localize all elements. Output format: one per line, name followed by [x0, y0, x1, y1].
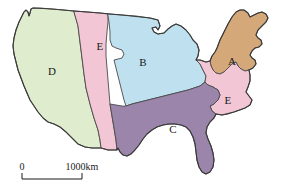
scale-bar-line [22, 173, 82, 179]
region-fills [13, 8, 268, 174]
scale-bar-end-label: 1000km [66, 161, 99, 172]
region-label-E-plains: E [97, 40, 104, 52]
map-svg: D E B A E C 0 1000km [0, 0, 282, 188]
region-label-D: D [48, 65, 56, 77]
us-regional-map-figure: D E B A E C 0 1000km [0, 0, 282, 188]
region-label-B: B [139, 56, 147, 68]
region-label-E-midatlantic: E [225, 94, 232, 106]
region-label-A: A [228, 55, 236, 67]
scale-bar-start-label: 0 [20, 161, 25, 172]
scale-bar: 0 1000km [20, 161, 99, 179]
region-label-C: C [169, 123, 177, 135]
